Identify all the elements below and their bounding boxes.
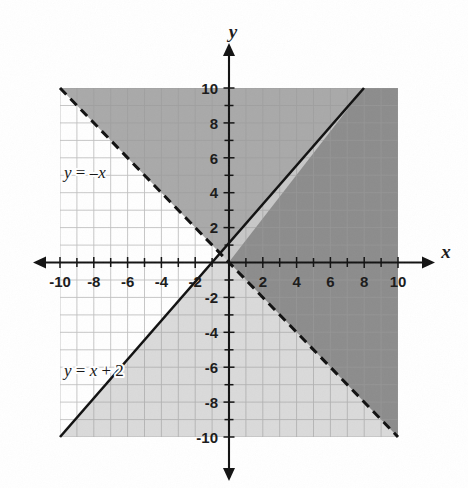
x-tick-label-8: 8 bbox=[360, 273, 368, 290]
label2-const: 2 bbox=[115, 361, 124, 380]
x-tick-label-6: 6 bbox=[326, 273, 334, 290]
label2-lhs: y bbox=[62, 361, 72, 380]
label2-eq: = bbox=[72, 361, 90, 380]
label1-eq: = bbox=[72, 163, 90, 182]
arrow-right-icon bbox=[422, 257, 435, 269]
label1-lhs: y bbox=[62, 163, 72, 182]
arrow-left-icon bbox=[33, 257, 46, 269]
x-tick-label--10: -10 bbox=[49, 273, 71, 290]
graph-canvas: -10 -8 -6 -4 -2 2 4 6 8 10 10 8 6 4 2 -2… bbox=[0, 0, 468, 488]
label2-op: + bbox=[97, 361, 115, 380]
x-tick-label-4: 4 bbox=[292, 273, 301, 290]
coordinate-graph: -10 -8 -6 -4 -2 2 4 6 8 10 10 8 6 4 2 -2… bbox=[0, 0, 468, 488]
label1-sign: – bbox=[89, 163, 99, 182]
arrow-down-icon bbox=[223, 468, 235, 481]
arrow-up-icon bbox=[223, 43, 235, 56]
x-tick-label--8: -8 bbox=[87, 273, 100, 290]
y-tick-label--6: -6 bbox=[205, 359, 218, 376]
y-tick-label-4: 4 bbox=[210, 184, 219, 201]
y-tick-label-2: 2 bbox=[210, 219, 218, 236]
y-tick-label--10: -10 bbox=[196, 429, 218, 446]
label-line-y-equals-negative-x: y = –x bbox=[62, 163, 106, 182]
y-tick-label--4: -4 bbox=[205, 324, 219, 341]
y-tick-label--8: -8 bbox=[205, 394, 218, 411]
y-tick-label--2: -2 bbox=[205, 289, 218, 306]
x-tick-label--2: -2 bbox=[189, 273, 202, 290]
y-tick-label-10: 10 bbox=[201, 80, 218, 97]
label1-var: x bbox=[97, 163, 106, 182]
x-axis-label: x bbox=[440, 241, 451, 262]
x-tick-label-10: 10 bbox=[390, 273, 407, 290]
y-axis-label: y bbox=[227, 21, 238, 42]
x-tick-label--6: -6 bbox=[121, 273, 134, 290]
label-line-y-equals-x-plus-2: y = x + 2 bbox=[62, 361, 124, 380]
y-tick-label-6: 6 bbox=[210, 150, 218, 167]
x-tick-label--4: -4 bbox=[155, 273, 169, 290]
x-tick-label-2: 2 bbox=[259, 273, 267, 290]
y-tick-label-8: 8 bbox=[210, 115, 218, 132]
